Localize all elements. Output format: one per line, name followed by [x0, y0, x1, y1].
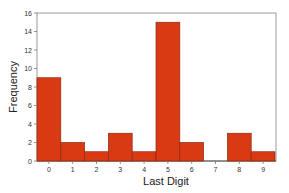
x-tick-label: 7 — [214, 166, 218, 173]
y-tick-label: 16 — [24, 10, 32, 17]
bar-1 — [61, 143, 85, 162]
y-axis-ticks: 0246810121416 — [24, 10, 37, 165]
bar-8 — [227, 133, 251, 161]
y-axis-title: Frequency — [7, 61, 19, 113]
bar-9 — [251, 152, 275, 161]
x-axis-ticks: 0123456789 — [47, 161, 265, 173]
x-tick-label: 8 — [237, 166, 241, 173]
y-tick-label: 0 — [28, 158, 32, 165]
x-tick-label: 1 — [71, 166, 75, 173]
x-tick-label: 5 — [166, 166, 170, 173]
histogram-chart: 0246810121416 0123456789 Last Digit Freq… — [0, 0, 289, 193]
bar-4 — [132, 152, 156, 161]
x-tick-label: 6 — [190, 166, 194, 173]
y-tick-label: 4 — [28, 121, 32, 128]
x-axis-title: Last Digit — [143, 175, 189, 187]
bar-2 — [85, 152, 109, 161]
bars — [37, 22, 275, 161]
x-tick-label: 4 — [142, 166, 146, 173]
y-tick-label: 2 — [28, 139, 32, 146]
x-tick-label: 2 — [95, 166, 99, 173]
x-tick-label: 0 — [47, 166, 51, 173]
bar-5 — [156, 22, 180, 161]
y-tick-label: 6 — [28, 102, 32, 109]
bar-3 — [108, 133, 132, 161]
y-tick-label: 10 — [24, 65, 32, 72]
y-tick-label: 14 — [24, 28, 32, 35]
x-tick-label: 9 — [261, 166, 265, 173]
x-tick-label: 3 — [118, 166, 122, 173]
y-tick-label: 8 — [28, 84, 32, 91]
bar-0 — [37, 78, 61, 161]
y-tick-label: 12 — [24, 47, 32, 54]
bar-6 — [180, 143, 204, 162]
